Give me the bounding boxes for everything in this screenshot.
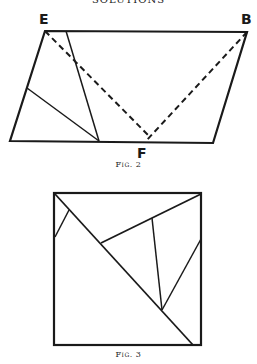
corner-cut (55, 210, 69, 237)
upper-cut (101, 194, 201, 243)
dashed-line-bf (146, 32, 247, 141)
diagonal-cut (55, 194, 193, 345)
cut-line-2 (27, 88, 99, 141)
right-cut (162, 239, 201, 310)
figures-canvas: E B F (0, 0, 257, 364)
label-e: E (39, 11, 49, 27)
figure-2-caption: Fig. 2 (0, 160, 257, 169)
vertical-cut (152, 218, 162, 310)
figure-3-caption: Fig. 3 (0, 350, 257, 359)
figure-2-diagram (10, 31, 247, 143)
dashed-line-ef (45, 31, 150, 137)
label-b: B (241, 11, 252, 27)
figure-3-diagram (54, 193, 201, 345)
label-f: F (137, 145, 147, 161)
cut-line-1 (66, 31, 99, 141)
parallelogram (10, 31, 247, 143)
